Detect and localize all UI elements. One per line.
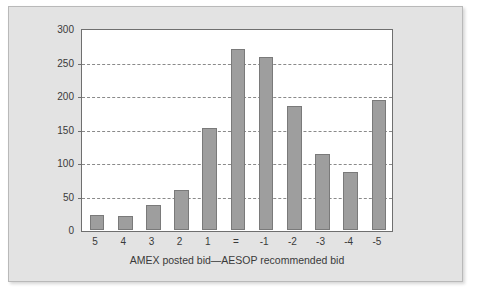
bar-slot <box>343 31 358 230</box>
x-tick-label-4: 4 <box>120 236 126 247</box>
y-tick-label-50: 50 <box>9 191 74 202</box>
y-tick-label-250: 250 <box>9 57 74 68</box>
bar-slot <box>118 31 133 230</box>
y-tick-label-150: 150 <box>9 124 74 135</box>
x-tick-label-=: = <box>233 236 239 247</box>
bar-slot <box>146 31 161 230</box>
bar--1[interactable] <box>259 57 274 230</box>
x-tick-label-5: 5 <box>92 236 98 247</box>
bar--5[interactable] <box>372 100 387 230</box>
y-tick-mark-100 <box>78 164 82 165</box>
bar-4[interactable] <box>118 216 133 230</box>
x-tick-label--4: -4 <box>344 236 353 247</box>
bar-slot <box>231 31 246 230</box>
bar-slot <box>259 31 274 230</box>
plot-area <box>81 29 393 232</box>
bar-slot <box>315 31 330 230</box>
y-tick-label-200: 200 <box>9 91 74 102</box>
x-tick-label-1: 1 <box>205 236 211 247</box>
x-tick-label-2: 2 <box>177 236 183 247</box>
x-tick-label--1: -1 <box>260 236 269 247</box>
x-tick-label-3: 3 <box>149 236 155 247</box>
bar--2[interactable] <box>287 106 302 230</box>
bar-1[interactable] <box>202 128 217 230</box>
bar-slot <box>202 31 217 230</box>
x-axis-title: AMEX posted bid—AESOP recommended bid <box>81 254 393 266</box>
y-tick-mark-250 <box>78 64 82 65</box>
bar-5[interactable] <box>90 215 105 230</box>
bar--4[interactable] <box>343 172 358 230</box>
bar-slot <box>174 31 189 230</box>
y-tick-label-100: 100 <box>9 158 74 169</box>
bar--3[interactable] <box>315 154 330 230</box>
y-tick-mark-200 <box>78 97 82 98</box>
y-tick-mark-50 <box>78 198 82 199</box>
y-tick-label-300: 300 <box>9 24 74 35</box>
x-tick-label--5: -5 <box>372 236 381 247</box>
figure-panel: Number of quotations 050100150200250300 … <box>8 6 463 282</box>
bar-slot <box>90 31 105 230</box>
bar-3[interactable] <box>146 205 161 230</box>
bar-slot <box>372 31 387 230</box>
x-tick-label--2: -2 <box>288 236 297 247</box>
bar-2[interactable] <box>174 190 189 230</box>
bars-group <box>83 31 391 230</box>
x-tick-label--3: -3 <box>316 236 325 247</box>
y-tick-label-0: 0 <box>9 225 74 236</box>
bar-slot <box>287 31 302 230</box>
bar-=[interactable] <box>231 49 246 230</box>
y-tick-mark-150 <box>78 131 82 132</box>
